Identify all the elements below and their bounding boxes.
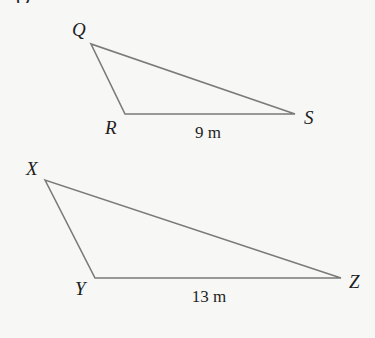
similar-triangles-figure: Q Q R S 9 m X Y Z 13 m — [0, 0, 375, 338]
vertex-label-x: X — [26, 159, 38, 178]
triangles-canvas — [0, 0, 375, 338]
triangle-qrs — [91, 44, 295, 114]
triangle-xyz — [45, 180, 341, 278]
vertex-label-r: R — [105, 118, 117, 137]
vertex-label-s: S — [304, 108, 314, 127]
vertex-label-q: Q — [72, 20, 86, 39]
vertex-label-y: Y — [75, 279, 86, 298]
vertex-label-z: Z — [349, 272, 360, 291]
side-length-rs: 9 m — [195, 124, 221, 141]
side-length-yz: 13 m — [192, 288, 226, 305]
